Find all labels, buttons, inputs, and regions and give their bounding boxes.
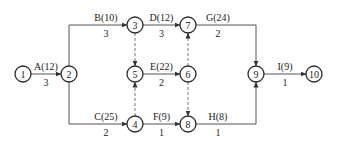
event-node-5: 5 bbox=[127, 66, 143, 82]
activity-duration-label: 3 bbox=[159, 28, 164, 39]
node-number: 5 bbox=[133, 69, 138, 80]
node-number: 2 bbox=[67, 69, 72, 80]
node-number: 8 bbox=[186, 119, 191, 130]
activity-duration-label: 2 bbox=[159, 77, 164, 88]
node-number: 1 bbox=[21, 69, 26, 80]
activity-duration-label: 1 bbox=[159, 127, 164, 138]
event-node-9: 9 bbox=[248, 66, 264, 82]
node-number: 6 bbox=[186, 69, 191, 80]
diagram-svg: A(12)3B(10)3C(25)2D(12)3E(22)2F(9)1G(24)… bbox=[0, 0, 338, 146]
event-node-4: 4 bbox=[127, 116, 143, 132]
node-number: 7 bbox=[186, 20, 191, 31]
event-node-1: 1 bbox=[15, 66, 31, 82]
activity-duration-label: 3 bbox=[104, 28, 109, 39]
node-number: 9 bbox=[254, 69, 259, 80]
activity-name-label: I(9) bbox=[278, 61, 293, 73]
activity-name-label: G(24) bbox=[206, 12, 230, 24]
activity-duration-label: 2 bbox=[216, 28, 221, 39]
activity-name-label: H(8) bbox=[209, 111, 228, 123]
event-node-3: 3 bbox=[127, 17, 143, 33]
activity-arrow-g bbox=[196, 25, 256, 66]
node-number: 3 bbox=[133, 20, 138, 31]
activity-duration-label: 3 bbox=[44, 77, 49, 88]
event-node-7: 7 bbox=[180, 17, 196, 33]
activity-name-label: A(12) bbox=[34, 61, 58, 73]
network-diagram: A(12)3B(10)3C(25)2D(12)3E(22)2F(9)1G(24)… bbox=[0, 0, 338, 146]
node-number: 4 bbox=[133, 119, 138, 130]
activity-name-label: D(12) bbox=[150, 12, 174, 24]
activity-duration-label: 2 bbox=[104, 127, 109, 138]
activity-name-label: B(10) bbox=[94, 12, 117, 24]
node-number: 10 bbox=[309, 69, 319, 80]
event-node-10: 10 bbox=[306, 66, 322, 82]
event-node-2: 2 bbox=[61, 66, 77, 82]
activity-arrow-b bbox=[69, 25, 127, 66]
activity-name-label: E(22) bbox=[150, 61, 173, 73]
activity-duration-label: 1 bbox=[283, 77, 288, 88]
activity-name-label: C(25) bbox=[94, 111, 117, 123]
activity-duration-label: 1 bbox=[216, 127, 221, 138]
event-node-8: 8 bbox=[180, 116, 196, 132]
activity-name-label: F(9) bbox=[153, 111, 170, 123]
event-node-6: 6 bbox=[180, 66, 196, 82]
